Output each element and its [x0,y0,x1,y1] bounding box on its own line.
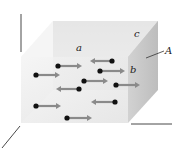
molecule-dot [113,82,118,87]
label-c: c [134,29,140,39]
molecule-dot [112,99,117,104]
molecule-dot [97,68,102,73]
molecule-dot [33,103,38,108]
label-A: A [165,46,172,56]
depth-axis-line [2,126,20,148]
molecule-dot [33,72,38,77]
gas-box-diagram [0,0,185,149]
molecule-dot [76,86,81,91]
molecule-dot [109,58,114,63]
molecule-dot [64,115,69,120]
label-a: a [76,43,82,53]
molecule-dot [55,63,60,68]
molecule-dot [81,78,86,83]
label-b: b [130,65,136,75]
